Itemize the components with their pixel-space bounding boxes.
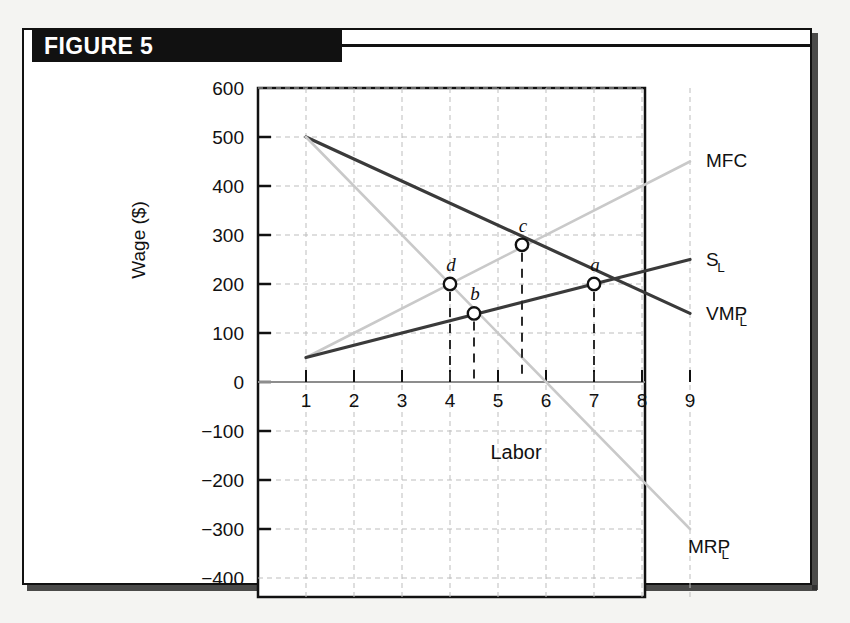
- series-label-s_l: SL: [706, 249, 725, 275]
- series-label-text: MFC: [706, 150, 747, 171]
- x-tick-label: 5: [493, 390, 504, 411]
- y-tick-label: 0: [233, 372, 244, 393]
- x-tick-label: 6: [541, 390, 552, 411]
- y-tick-label: 400: [212, 176, 244, 197]
- figure-page: FIGURE 5 Wage ($) 6005004003002001000−10…: [0, 0, 850, 623]
- annotation-marker-a[interactable]: [588, 278, 600, 290]
- annotation-label-a: a: [590, 254, 600, 275]
- plot-frame: [258, 88, 645, 597]
- annotation-label-d: d: [446, 254, 456, 275]
- series-label-mfc: MFC: [706, 150, 747, 171]
- series-label-subscript: L: [722, 547, 730, 562]
- series-label-mrp_l: MRPL: [688, 536, 730, 562]
- x-tick-label: 9: [685, 390, 696, 411]
- annotation-label-c: c: [519, 215, 528, 236]
- series-label-vmp_l: VMPL: [706, 303, 748, 329]
- annotation-marker-c[interactable]: [516, 239, 528, 251]
- y-tick-label: 100: [212, 323, 244, 344]
- y-tick-label: 300: [212, 225, 244, 246]
- y-tick-label: 500: [212, 127, 244, 148]
- x-tick-label: 4: [445, 390, 456, 411]
- x-tick-label: 1: [301, 390, 312, 411]
- x-axis-label: Labor: [490, 441, 541, 463]
- series-label-subscript: L: [717, 260, 725, 275]
- y-tick-label: −400: [201, 568, 244, 589]
- x-tick-label: 3: [397, 390, 408, 411]
- x-tick-label: 8: [637, 390, 648, 411]
- y-tick-label: 600: [212, 78, 244, 99]
- chart-plot-area: 6005004003002001000−100−200−300−40012345…: [0, 0, 850, 623]
- y-tick-label: −200: [201, 470, 244, 491]
- x-tick-label: 7: [589, 390, 600, 411]
- annotation-marker-d[interactable]: [444, 278, 456, 290]
- annotation-label-b: b: [470, 283, 480, 304]
- annotation-marker-b[interactable]: [468, 307, 480, 319]
- chart-svg: 6005004003002001000−100−200−300−40012345…: [0, 0, 850, 623]
- y-tick-label: −300: [201, 519, 244, 540]
- x-tick-label: 2: [349, 390, 360, 411]
- y-tick-label: −100: [201, 421, 244, 442]
- series-label-subscript: L: [740, 314, 748, 329]
- y-tick-label: 200: [212, 274, 244, 295]
